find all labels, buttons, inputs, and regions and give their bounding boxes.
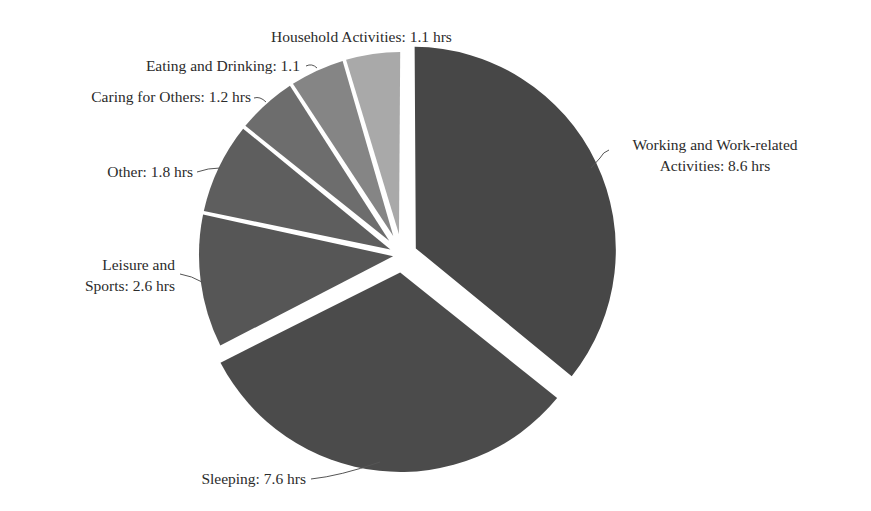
leader-line: [180, 274, 202, 282]
slice-label-line: Activities: 8.6 hrs: [660, 157, 771, 174]
slice-label-line: Caring for Others: 1.2 hrs: [91, 88, 251, 105]
slice-label-line: Other: 1.8 hrs: [107, 163, 193, 180]
slice-label-line: Sleeping: 7.6 hrs: [201, 470, 306, 487]
slice-label-line: Sports: 2.6 hrs: [85, 277, 175, 294]
leader-line: [306, 65, 317, 68]
slice-label-line: Leisure and: [102, 256, 175, 273]
pie-slices: [199, 47, 616, 472]
slice-label: Eating and Drinking: 1.1: [146, 57, 300, 74]
slice-label: Sleeping: 7.6 hrs: [201, 470, 306, 487]
leader-line: [197, 168, 220, 172]
slice-label: Caring for Others: 1.2 hrs: [91, 88, 251, 105]
slice-label: Leisure andSports: 2.6 hrs: [85, 256, 175, 294]
slice-label-line: Household Activities: 1.1 hrs: [271, 28, 452, 45]
slice-label: Household Activities: 1.1 hrs: [271, 28, 452, 45]
slice-label-line: Eating and Drinking: 1.1: [146, 57, 300, 74]
pie-chart: Working and Work-relatedActivities: 8.6 …: [0, 0, 871, 511]
slice-label: Other: 1.8 hrs: [107, 163, 193, 180]
leader-line: [254, 98, 266, 103]
slice-label-line: Working and Work-related: [632, 136, 797, 153]
slice-label: Working and Work-relatedActivities: 8.6 …: [632, 136, 797, 174]
